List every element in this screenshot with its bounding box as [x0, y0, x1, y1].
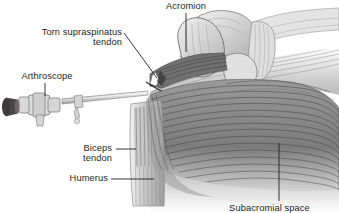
deltoid-muscle — [150, 79, 339, 213]
label-torn-supraspinatus-tendon: Torn supraspinatustendon — [10, 27, 122, 48]
label-biceps-line1: Biceps — [83, 143, 112, 153]
label-biceps-line2: tendon — [83, 153, 112, 163]
label-torn-line2: tendon — [93, 37, 122, 47]
label-arthroscope: Arthroscope — [8, 71, 86, 81]
label-humerus: Humerus — [40, 173, 108, 183]
label-subacromial-space: Subacromial space — [200, 203, 339, 213]
medical-illustration-figure: Acromion Torn supraspinatustendon Arthro… — [0, 0, 339, 213]
label-biceps-tendon: Bicepstendon — [42, 143, 112, 164]
label-acromion: Acromion — [140, 1, 232, 11]
label-torn-line1: Torn supraspinatus — [42, 27, 122, 37]
